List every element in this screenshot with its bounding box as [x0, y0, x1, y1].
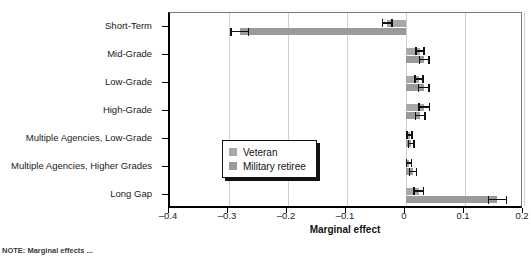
x-axis-tick-label: –0.2 [277, 210, 296, 221]
x-axis-tick-label: –0.4 [159, 210, 178, 221]
x-axis-title: Marginal effect [168, 224, 522, 235]
y-axis-label: Multiple Agencies, Higher Grades [11, 161, 152, 171]
y-axis-label: Low-Grade [105, 77, 152, 87]
y-axis-label: Short-Term [105, 21, 152, 31]
y-axis-label: Long Gap [110, 189, 152, 199]
y-axis-label: Multiple Agencies, Low-Grade [26, 133, 152, 143]
y-axis-label: High-Grade [103, 105, 152, 115]
legend-item-veteran: Veteran [229, 145, 306, 159]
x-axis-tick-label: 0.1 [456, 210, 469, 221]
y-axis-tick [162, 54, 168, 55]
x-axis-tick-label: –0.3 [218, 210, 237, 221]
y-axis-category-labels: Short-TermMid-GradeLow-GradeHigh-GradeMu… [0, 0, 162, 212]
y-axis-label: Mid-Grade [107, 49, 152, 59]
chart-figure: Short-TermMid-GradeLow-GradeHigh-GradeMu… [0, 0, 532, 256]
legend-label-military-retiree: Military retiree [243, 161, 306, 172]
y-axis-tick [162, 138, 168, 139]
legend-swatch-icon-veteran [229, 148, 237, 156]
y-axis-tick [162, 26, 168, 27]
x-axis-tick-label: 0 [401, 210, 406, 221]
y-axis-tick [162, 166, 168, 167]
y-axis-tick [162, 82, 168, 83]
x-axis-tick-label: –0.1 [336, 210, 355, 221]
x-axis-tick-label: 0.2 [515, 210, 528, 221]
legend-item-military-retiree: Military retiree [229, 159, 306, 173]
chart-legend: Veteran Military retiree [222, 140, 317, 178]
gridline [524, 13, 525, 206]
footnote: NOTE: Marginal effects ... [2, 246, 93, 255]
legend-label-veteran: Veteran [243, 147, 277, 158]
y-axis-tick [162, 110, 168, 111]
legend-swatch-icon-military-retiree [229, 162, 237, 170]
axis-ticks-layer [168, 12, 522, 208]
y-axis-tick [162, 194, 168, 195]
